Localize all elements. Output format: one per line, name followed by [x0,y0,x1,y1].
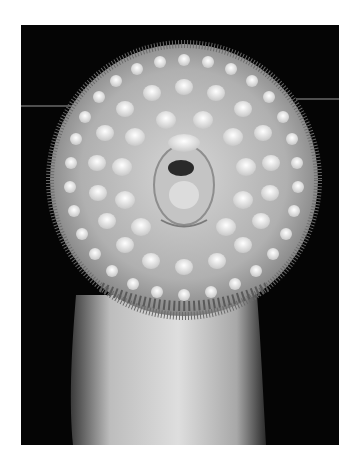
mouth-opening [168,160,194,176]
lamprey-photo [21,25,339,445]
tongue [169,181,199,209]
supraoral-tooth [168,134,200,152]
lamprey-body [71,295,266,445]
lamprey-illustration [21,25,339,445]
